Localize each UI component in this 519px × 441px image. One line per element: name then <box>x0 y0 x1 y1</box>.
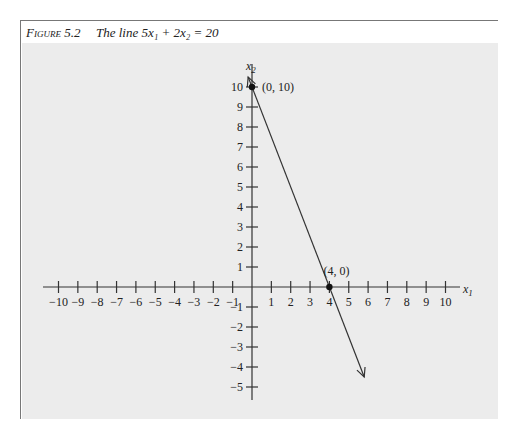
y-tick-label: 4 <box>237 200 243 214</box>
x-tick-label: −7 <box>110 295 123 309</box>
x-tick-label: −4 <box>168 295 181 309</box>
y-tick-label: −5 <box>230 380 243 394</box>
x-tick-label: −8 <box>91 295 104 309</box>
y-tick-label: 7 <box>237 140 243 154</box>
y-tick-label: 1 <box>237 260 243 274</box>
y-tick-label: −2 <box>230 320 243 334</box>
x-tick-label: 8 <box>404 295 410 309</box>
point-label: (0, 10) <box>262 80 294 94</box>
x-tick-label: −3 <box>188 295 201 309</box>
x-tick-label: 5 <box>346 295 352 309</box>
data-point <box>249 84 255 90</box>
y-tick-label: 5 <box>237 180 243 194</box>
y-tick-label: 6 <box>237 160 243 174</box>
x-tick-label: −5 <box>149 295 162 309</box>
x-tick-label: 7 <box>384 295 390 309</box>
x-tick-label: −2 <box>207 295 220 309</box>
y-tick-label: 9 <box>237 100 243 114</box>
y-tick-label: 8 <box>237 120 243 134</box>
x-tick-label: −10 <box>49 295 68 309</box>
y-tick-label: 10 <box>231 80 243 94</box>
line-chart: −10−9−8−7−6−5−4−3−2−112345678910−5−4−3−2… <box>0 0 519 441</box>
y-tick-label: −3 <box>230 340 243 354</box>
y-axis-label: x2 <box>245 59 256 75</box>
x-tick-label: 6 <box>365 295 371 309</box>
data-point <box>326 284 332 290</box>
x-tick-label: 3 <box>307 295 313 309</box>
point-label: (4, 0) <box>323 264 349 278</box>
x-tick-label: 2 <box>288 295 294 309</box>
equation-line <box>248 77 364 377</box>
x-tick-label: 1 <box>268 295 274 309</box>
x-tick-label: 9 <box>423 295 429 309</box>
y-tick-label: 2 <box>237 240 243 254</box>
y-tick-label: 3 <box>237 220 243 234</box>
x-tick-label: −6 <box>130 295 143 309</box>
y-tick-label: −1 <box>230 300 243 314</box>
y-tick-label: −4 <box>230 360 243 374</box>
x-tick-label: 4 <box>326 295 332 309</box>
x-tick-label: −9 <box>71 295 84 309</box>
x-tick-label: 10 <box>440 295 452 309</box>
x-axis-label: x1 <box>462 282 473 298</box>
